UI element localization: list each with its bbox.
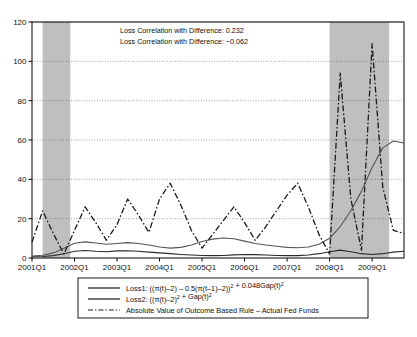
x-tick-label-2009Q1: 2009Q1 (358, 263, 387, 272)
line-chart: 0204060801001202001Q12002Q12003Q12004Q12… (0, 0, 417, 337)
y-tick-label-100: 100 (13, 57, 27, 66)
y-tick-label-0: 0 (22, 254, 27, 263)
y-tick-label-80: 80 (18, 97, 27, 106)
x-tick-label-2008Q1: 2008Q1 (315, 263, 344, 272)
annotation-2: Loss Correlation with Difference: −0.062 (120, 37, 248, 46)
shaded-band-recession-2008 (330, 22, 390, 258)
x-tick-label-2002Q1: 2002Q1 (60, 263, 89, 272)
y-tick-label-60: 60 (18, 136, 27, 145)
annotation-1: Loss Correlation with Difference: 0.232 (120, 26, 244, 35)
y-tick-label-120: 120 (13, 18, 27, 27)
x-tick-label-2001Q1: 2001Q1 (18, 263, 47, 272)
x-tick-label-2003Q1: 2003Q1 (103, 263, 132, 272)
x-tick-label-2005Q1: 2005Q1 (188, 263, 217, 272)
x-tick-label-2007Q1: 2007Q1 (273, 263, 302, 272)
chart-container: 0204060801001202001Q12002Q12003Q12004Q12… (0, 0, 417, 337)
x-tick-label-2004Q1: 2004Q1 (145, 263, 174, 272)
y-tick-label-20: 20 (18, 215, 27, 224)
x-tick-label-2006Q1: 2006Q1 (230, 263, 259, 272)
legend-label-3: Absolute Value of Outcome Based Rule – A… (126, 306, 319, 315)
y-tick-label-40: 40 (18, 175, 27, 184)
